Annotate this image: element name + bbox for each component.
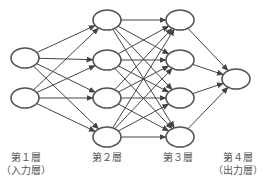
neuron-node-layer3-4 [166, 127, 194, 147]
connections [33, 20, 228, 137]
layer2-label: 第２層 [92, 151, 122, 164]
layer4-role: （出力層） [213, 164, 263, 177]
neuron-node-layer3-1 [166, 10, 194, 30]
layer2-name: 第２層 [92, 151, 122, 164]
layer4-label: 第４層 （出力層） [213, 151, 263, 177]
layer1-name: 第１層 [1, 151, 51, 164]
layer1-label: 第１層 （入力層） [1, 151, 51, 177]
neuron-node-layer2-1 [93, 10, 121, 30]
neuron-node-layer3-2 [166, 50, 194, 70]
layer3-label: 第３層 [163, 151, 193, 164]
connection-arrow [193, 83, 224, 93]
neuron-node-layer1-2 [11, 88, 39, 108]
neuron-node-layer4-1 [222, 69, 250, 89]
neuron-node-layer3-3 [166, 88, 194, 108]
connection-arrow [33, 28, 98, 90]
neuron-node-layer2-2 [93, 50, 121, 70]
connection-arrow [193, 64, 224, 74]
layer1-role: （入力層） [1, 164, 51, 177]
neuron-node-layer1-1 [11, 48, 39, 68]
neuron-node-layer2-4 [93, 127, 121, 147]
layer4-name: 第４層 [213, 151, 263, 164]
layer3-name: 第３層 [163, 151, 193, 164]
neuron-node-layer2-3 [93, 88, 121, 108]
